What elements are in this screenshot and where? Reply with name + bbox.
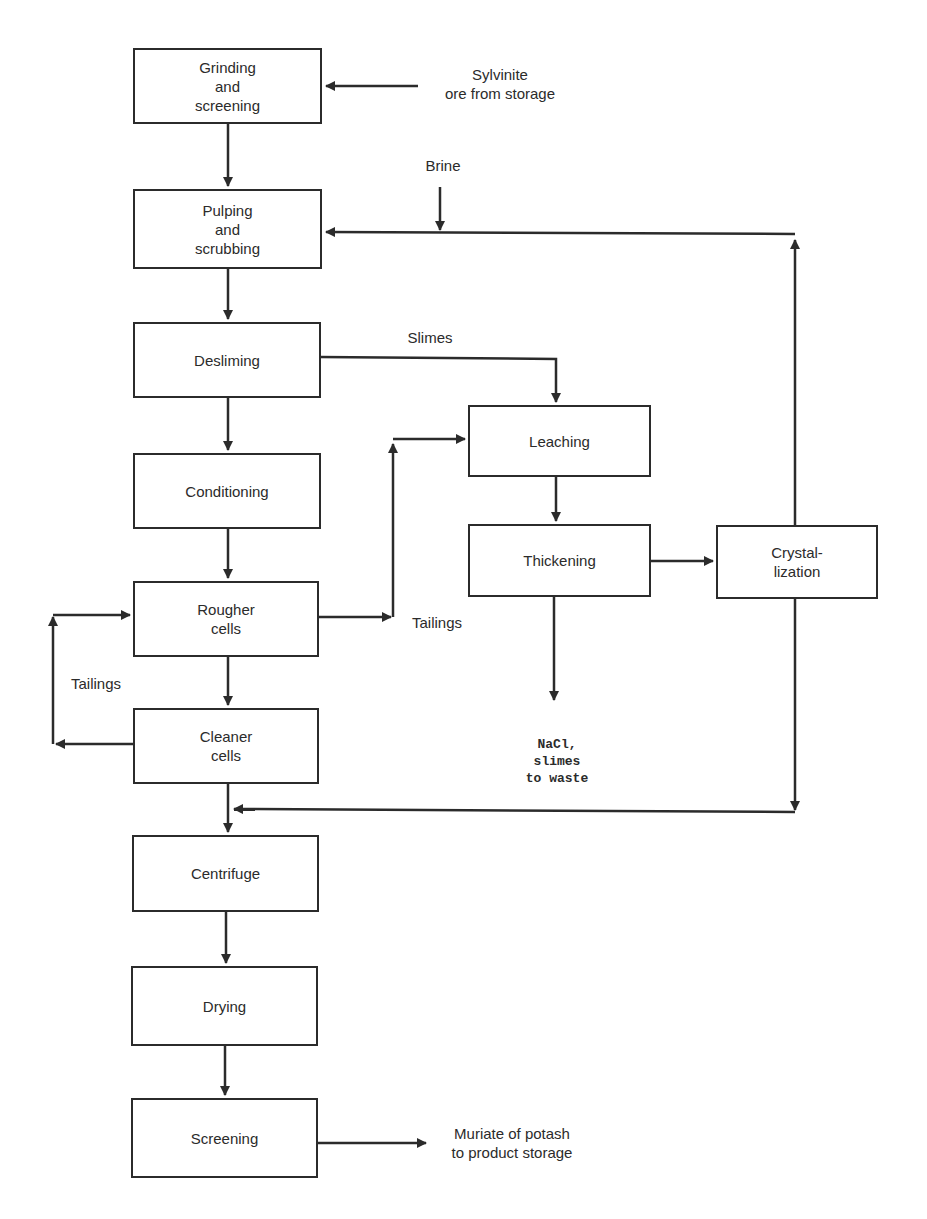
- box-leaching: Leaching: [468, 405, 651, 477]
- box-crystalization-label: Crystal- lization: [771, 543, 823, 581]
- box-screening: Screening: [131, 1098, 318, 1178]
- box-thickening: Thickening: [468, 524, 651, 597]
- label-product: Muriate of potash to product storage: [436, 1124, 588, 1162]
- box-grinding: Grinding and screening: [133, 48, 322, 124]
- box-desliming-label: Desliming: [194, 351, 260, 370]
- box-cleaner: Cleaner cells: [133, 708, 319, 784]
- box-cleaner-label: Cleaner cells: [200, 727, 253, 765]
- label-tailings-rougher: Tailings: [405, 613, 469, 632]
- box-desliming: Desliming: [133, 322, 321, 398]
- box-conditioning-label: Conditioning: [185, 482, 268, 501]
- box-centrifuge: Centrifuge: [132, 835, 319, 912]
- box-thickening-label: Thickening: [523, 551, 596, 570]
- label-sylvinite: Sylvinite ore from storage: [430, 65, 570, 103]
- box-pulping: Pulping and scrubbing: [133, 189, 322, 269]
- box-grinding-label: Grinding and screening: [195, 58, 260, 115]
- box-pulping-label: Pulping and scrubbing: [195, 201, 260, 258]
- box-crystalization: Crystal- lization: [716, 525, 878, 599]
- box-rougher: Rougher cells: [133, 581, 319, 657]
- edge-recycle-to-pulping: [326, 232, 795, 234]
- box-leaching-label: Leaching: [529, 432, 590, 451]
- box-conditioning: Conditioning: [133, 453, 321, 529]
- edge-crystal-to-centrifuge: [234, 809, 795, 812]
- label-waste: NaCl, slimes to waste: [517, 736, 597, 787]
- box-screening-label: Screening: [191, 1129, 259, 1148]
- box-drying: Drying: [131, 966, 318, 1046]
- label-brine: Brine: [418, 156, 468, 175]
- edge-desliming-slimes: [320, 357, 556, 402]
- box-drying-label: Drying: [203, 997, 246, 1016]
- box-rougher-label: Rougher cells: [197, 600, 255, 638]
- label-slimes: Slimes: [398, 328, 462, 347]
- box-centrifuge-label: Centrifuge: [191, 864, 260, 883]
- label-tailings-cleaner: Tailings: [64, 674, 128, 693]
